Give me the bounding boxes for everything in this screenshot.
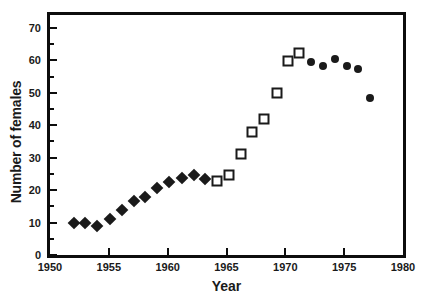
data-point-circle [354,65,362,73]
data-point-circle [319,62,327,70]
axis-tick-mark [50,108,54,110]
scatter-chart-figure: Number of females Year 010203040506070 1… [0,0,426,301]
axis-tick-mark [50,189,57,191]
axis-tick-mark [108,248,110,255]
y-tick-label: 20 [11,185,41,196]
data-point-circle [343,62,351,70]
axis-tick-mark [50,124,57,126]
y-tick-label: 0 [11,250,41,261]
axis-tick-mark [50,92,57,94]
data-point-square [294,47,305,58]
data-point-diamond [151,181,164,194]
y-tick-label: 70 [11,23,41,34]
axis-tick-mark [284,248,286,255]
data-point-diamond [91,219,104,232]
y-tick-label: 60 [11,55,41,66]
axis-tick-mark [50,140,54,142]
y-tick-label: 10 [11,218,41,229]
data-point-square [223,169,234,180]
y-tick-label: 30 [11,153,41,164]
axis-tick-mark [50,205,54,207]
data-point-circle [307,58,315,66]
x-tick-label: 1955 [84,262,134,273]
axis-tick-mark [50,76,54,78]
x-tick-label: 1950 [25,262,75,273]
data-point-square [212,176,223,187]
y-tick-label: 50 [11,88,41,99]
axis-tick-mark [50,254,57,256]
axis-tick-mark [167,248,169,255]
axis-tick-mark [50,43,54,45]
x-tick-label: 1970 [260,262,310,273]
axis-tick-mark [50,173,54,175]
x-tick-label: 1960 [143,262,193,273]
data-point-diamond [104,213,117,226]
data-point-diamond [79,216,92,229]
axis-tick-mark [50,157,57,159]
axis-tick-mark [50,59,57,61]
axis-tick-mark [50,238,54,240]
x-axis-title: Year [47,278,406,294]
data-point-diamond [139,190,152,203]
data-point-diamond [162,176,175,189]
data-point-square [247,126,258,137]
y-tick-label: 40 [11,120,41,131]
x-tick-label: 1975 [319,262,369,273]
plot-area [47,12,406,258]
data-point-diamond [199,172,212,185]
data-point-square [259,113,270,124]
data-point-square [272,88,283,99]
y-axis-title: Number of females [8,52,24,232]
axis-tick-mark [50,27,57,29]
axis-tick-mark [50,222,57,224]
axis-tick-mark [226,248,228,255]
axis-tick-mark [343,248,345,255]
data-point-circle [331,55,339,63]
data-point-diamond [175,172,188,185]
data-point-square [282,56,293,67]
x-tick-label: 1980 [378,262,426,273]
data-point-circle [366,94,374,102]
x-tick-label: 1965 [202,262,252,273]
data-point-diamond [115,203,128,216]
data-point-square [235,149,246,160]
